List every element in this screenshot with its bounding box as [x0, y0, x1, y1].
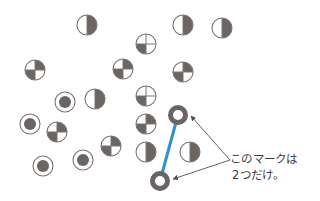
connector-line — [160, 115, 178, 181]
annotation-arrow — [173, 160, 230, 179]
quartered-circle-icon — [113, 59, 133, 79]
quartered-circle-icon — [101, 136, 121, 156]
quarter-filled-circle-icon — [136, 86, 156, 106]
half-filled-circle-icon — [212, 18, 232, 38]
thick-ring-mark-icon — [153, 174, 168, 189]
quarter-filled-circle-icon — [136, 34, 156, 54]
quartered-circle-icon — [136, 114, 156, 134]
caption-line-1: このマークは — [230, 151, 298, 167]
quartered-circle-icon — [47, 122, 67, 142]
dot-in-ring-icon — [73, 150, 93, 170]
caption-line-2: 2つだけ。 — [230, 167, 298, 183]
quartered-circle-icon — [173, 62, 193, 82]
half-filled-circle-icon — [180, 142, 200, 162]
dot-in-ring-icon — [33, 156, 53, 176]
annotation-caption: このマークは 2つだけ。 — [230, 151, 298, 183]
half-filled-circle-icon — [136, 142, 156, 162]
quartered-circle-icon — [25, 60, 45, 80]
thick-ring-mark-icon — [171, 108, 186, 123]
half-filled-circle-icon — [77, 15, 97, 35]
half-filled-circle-icon — [85, 89, 105, 109]
dot-in-ring-icon — [55, 92, 75, 112]
half-filled-circle-icon — [173, 15, 193, 35]
dot-in-ring-icon — [20, 114, 40, 134]
